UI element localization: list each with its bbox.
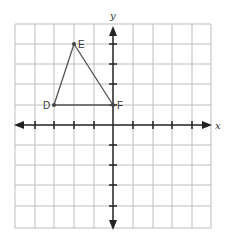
point-d xyxy=(52,103,56,107)
coordinate-plane: x y D E F xyxy=(0,0,228,238)
point-e-label: E xyxy=(78,39,85,50)
point-f-label: F xyxy=(117,100,123,111)
y-axis-top-arrow xyxy=(109,26,117,36)
x-axis-label: x xyxy=(215,120,221,131)
point-e xyxy=(72,42,76,46)
point-f xyxy=(111,103,115,107)
triangle-def xyxy=(54,44,113,105)
y-axis-label: y xyxy=(109,10,116,21)
y-axis xyxy=(109,30,117,222)
point-d-label: D xyxy=(43,100,50,111)
